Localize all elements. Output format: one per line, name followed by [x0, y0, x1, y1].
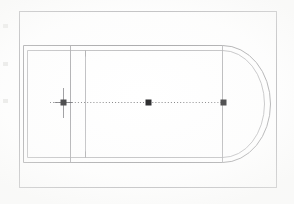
plan-drawing-canvas	[0, 0, 294, 204]
survey-point-center	[146, 100, 152, 106]
survey-point-east	[221, 100, 227, 106]
scanned-drawing-page	[0, 0, 294, 204]
